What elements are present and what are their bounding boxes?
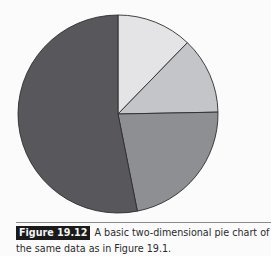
figure-caption: Figure 19.12A basic two-dimensional pie … [16,225,271,256]
pie-chart [0,0,271,220]
pie-chart-svg [0,0,271,220]
figure-label: Figure 19.12 [16,226,90,240]
caption-divider [16,222,271,223]
